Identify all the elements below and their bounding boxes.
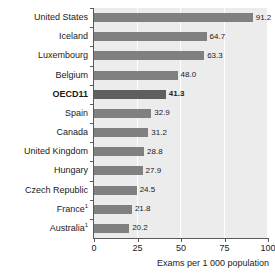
x-tick-mark: [181, 238, 182, 242]
y-axis-tick: [90, 66, 94, 67]
category-label-czech-republic: Czech Republic: [0, 185, 88, 196]
bar-oecd11: [94, 90, 166, 99]
x-tick-mark: [138, 238, 139, 242]
bar-canada: [94, 128, 148, 137]
gridline: [267, 8, 268, 238]
bar-hungary: [94, 166, 143, 175]
footnote-marker: 1: [85, 222, 88, 228]
gridline: [224, 8, 225, 238]
category-label-canada: Canada: [0, 127, 88, 138]
category-label-hungary: Hungary: [0, 165, 88, 176]
x-tick-label: 50: [176, 243, 186, 254]
category-label-spain: Spain: [0, 108, 88, 119]
bar-value-label: 20.2: [132, 223, 148, 233]
bar-value-label: 91.2: [256, 13, 272, 23]
footnote-marker: 1: [85, 203, 88, 209]
x-tick-label: 100: [260, 243, 275, 254]
bar-value-label: 48.0: [181, 70, 197, 80]
bar-czech-republic: [94, 186, 137, 195]
bar-chart: United States91.2Iceland64.7Luxembourg63…: [0, 0, 275, 276]
plot-area: [93, 8, 268, 238]
category-label-luxembourg: Luxembourg: [0, 50, 88, 61]
category-label-france: France1: [0, 204, 88, 215]
bar-value-label: 63.3: [207, 51, 223, 61]
y-axis-tick: [90, 46, 94, 47]
y-axis-tick: [90, 8, 94, 9]
y-axis-tick: [90, 181, 94, 182]
bar-value-label: 64.7: [210, 32, 226, 42]
bar-france: [94, 205, 132, 214]
bar-iceland: [94, 32, 207, 41]
bar-united-kingdom: [94, 147, 144, 156]
bar-united-states: [94, 13, 253, 22]
bar-spain: [94, 109, 151, 118]
bar-value-label: 27.9: [146, 166, 162, 176]
x-tick-mark: [268, 238, 269, 242]
x-tick-label: 0: [91, 243, 96, 254]
bar-belgium: [94, 71, 178, 80]
x-tick-label: 75: [219, 243, 229, 254]
x-tick-label: 25: [132, 243, 142, 254]
x-axis-title: Exams per 1 000 population: [157, 258, 269, 269]
category-label-united-states: United States: [0, 12, 88, 23]
x-tick-mark: [94, 238, 95, 242]
y-axis-tick: [90, 161, 94, 162]
bar-value-label: 32.9: [154, 108, 170, 118]
category-label-oecd11: OECD11: [0, 89, 88, 100]
bar-value-label: 41.3: [169, 89, 185, 99]
category-label-australia: Australia1: [0, 223, 88, 234]
category-label-belgium: Belgium: [0, 70, 88, 81]
bar-value-label: 31.2: [151, 128, 167, 138]
y-axis-tick: [90, 200, 94, 201]
y-axis-tick: [90, 123, 94, 124]
category-label-iceland: Iceland: [0, 31, 88, 42]
y-axis-tick: [90, 219, 94, 220]
y-axis-tick: [90, 142, 94, 143]
bar-australia: [94, 224, 129, 233]
bar-value-label: 21.8: [135, 204, 151, 214]
y-axis-tick: [90, 27, 94, 28]
bar-value-label: 28.8: [147, 147, 163, 157]
category-label-united-kingdom: United Kingdom: [0, 146, 88, 157]
y-axis-tick: [90, 85, 94, 86]
bar-luxembourg: [94, 51, 204, 60]
x-tick-mark: [225, 238, 226, 242]
bar-value-label: 24.5: [140, 185, 156, 195]
y-axis-tick: [90, 104, 94, 105]
gridline: [180, 8, 181, 238]
